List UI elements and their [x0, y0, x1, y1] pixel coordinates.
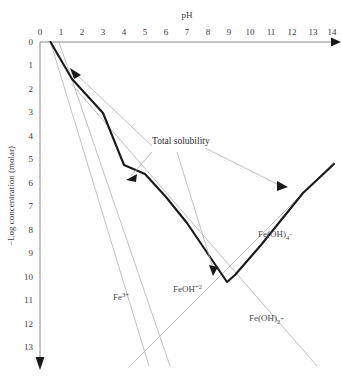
y-tick-11: 11 [24, 295, 33, 305]
y-axis-title: −Log concentration (molar) [6, 146, 16, 246]
x-tick-0: 0 [38, 27, 43, 37]
x-tick-12: 12 [288, 27, 297, 37]
y-tick-2: 2 [29, 84, 34, 94]
y-tick-4: 4 [29, 131, 34, 141]
y-tick-13: 13 [24, 342, 34, 352]
x-tick-5: 5 [143, 27, 148, 37]
species-label-feoh4: Fe(OH)4− [258, 229, 293, 241]
total-solubility-curve [51, 42, 335, 282]
species-label-feoh2plus-base: Fe(OH) [249, 313, 277, 323]
leader-arrowhead-right [277, 181, 288, 191]
species-line-fe3 [51, 42, 150, 366]
species-label-feoh4-base: Fe(OH) [258, 229, 286, 239]
x-tick-1: 1 [59, 27, 64, 37]
species-label-feoh2-sup: +2 [195, 283, 202, 290]
species-line-feoh2 [59, 42, 170, 366]
y-tick-12: 12 [24, 319, 33, 329]
species-label-fe3: Fe3+ [113, 291, 129, 302]
leader-line-minimum [177, 152, 213, 268]
y-tick-6: 6 [29, 178, 34, 188]
x-tick-3: 3 [101, 27, 106, 37]
y-tick-5: 5 [29, 154, 34, 164]
species-label-feoh2-base: FeOH [173, 284, 195, 294]
y-tick-0: 0 [29, 37, 34, 47]
species-label-feoh4-sup: − [289, 231, 293, 238]
x-tick-6: 6 [164, 27, 169, 37]
x-axis-arrowhead [331, 38, 341, 47]
x-tick-10: 10 [246, 27, 256, 37]
y-tick-9: 9 [29, 248, 34, 258]
species-label-feoh2plus-sup: + [280, 315, 284, 322]
species-label-feoh2: FeOH+2 [173, 283, 202, 294]
x-tick-14: 14 [328, 27, 338, 37]
x-tick-labels: 0 1 2 3 4 5 6 7 8 9 10 11 12 13 14 [38, 27, 337, 37]
y-tick-7: 7 [29, 201, 34, 211]
species-label-feoh2plus: Fe(OH)2+ [249, 313, 284, 325]
species-label-fe3-sup: 3+ [122, 291, 129, 298]
y-tick-10: 10 [24, 272, 34, 282]
x-tick-8: 8 [206, 27, 211, 37]
x-tick-2: 2 [80, 27, 85, 37]
x-tick-9: 9 [227, 27, 232, 37]
y-tick-1: 1 [29, 60, 34, 70]
x-tick-7: 7 [185, 27, 190, 37]
x-tick-13: 13 [309, 27, 319, 37]
leader-line-upper [75, 73, 152, 146]
x-tick-4: 4 [122, 27, 127, 37]
y-axis-arrowhead [36, 357, 45, 370]
x-axis-title: pH [182, 10, 194, 20]
annotation-total-solubility: Total solubility [152, 136, 210, 146]
chart-svg: 0 1 2 3 4 5 6 7 8 9 10 11 12 13 14 pH 0 … [0, 0, 342, 377]
x-tick-11: 11 [267, 27, 276, 37]
leader-line-right [205, 148, 281, 186]
annotation-leaders [70, 68, 288, 276]
y-tick-labels: 0 1 2 3 4 5 6 7 8 9 10 11 12 13 [24, 37, 34, 352]
y-tick-8: 8 [29, 225, 34, 235]
solubility-diagram: 0 1 2 3 4 5 6 7 8 9 10 11 12 13 14 pH 0 … [0, 0, 342, 377]
y-tick-3: 3 [29, 107, 34, 117]
species-label-fe3-base: Fe [113, 292, 122, 302]
